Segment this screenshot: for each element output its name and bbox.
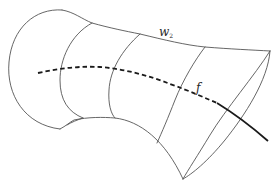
surface-diagram <box>0 0 276 183</box>
cross-section-3 <box>157 47 205 143</box>
curve-label: f <box>196 82 200 94</box>
surface-label-subscript: 2 <box>169 32 173 39</box>
surface-label-base: w <box>159 25 169 39</box>
cross-section-1 <box>60 23 92 118</box>
bottom-fold-line <box>67 118 83 125</box>
surface-label: w2 <box>159 26 173 39</box>
curve-f-hidden <box>38 67 217 103</box>
curve-f-visible <box>217 103 268 141</box>
cross-section-2 <box>109 34 140 118</box>
right-end-front <box>183 51 270 179</box>
